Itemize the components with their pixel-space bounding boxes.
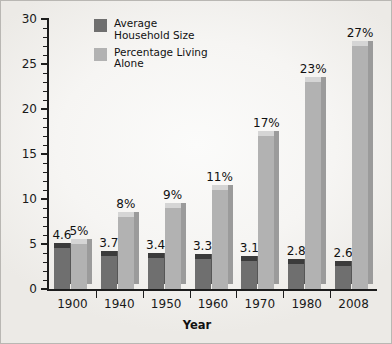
legend-label-percentage-living-alone: Percentage Living Alone: [114, 47, 208, 71]
y-tick-label-15: 15: [7, 148, 37, 160]
y-tick-label-20: 20: [7, 103, 37, 115]
chart-container: 051015202530 190019401950196019701980200…: [0, 0, 392, 344]
bar-1950-series-2: [165, 208, 181, 289]
y-minor-tick: [43, 100, 48, 101]
bar-face-face: [305, 82, 321, 289]
x-axis-title: Year: [1, 318, 392, 332]
x-tick-label-2008: 2008: [324, 298, 384, 310]
y-minor-tick: [43, 181, 48, 182]
bar-top-face: [258, 131, 274, 136]
y-minor-tick: [43, 217, 48, 218]
bar-top-face: [165, 203, 181, 208]
x-tick-separator: [96, 291, 97, 298]
bar-face-face: [335, 266, 351, 289]
bar-face-face: [165, 208, 181, 289]
bar-top-face: [54, 243, 70, 248]
y-minor-tick: [43, 91, 48, 92]
y-minor-tick: [43, 280, 48, 281]
bar-1940-series-2: [118, 217, 134, 289]
legend-item-percentage-living-alone: Percentage Living Alone: [94, 47, 224, 71]
y-minor-tick: [43, 208, 48, 209]
bar-1900-series-1: [54, 248, 70, 289]
y-minor-tick: [43, 271, 48, 272]
y-minor-tick: [43, 163, 48, 164]
bar-value-label-1980-series-2: 23%: [292, 63, 334, 75]
bar-top-face: [241, 256, 257, 261]
bar-value-label-1960-series-2: 11%: [199, 171, 241, 183]
bar-face-face: [54, 248, 70, 289]
y-tick-label-0: 0: [7, 283, 37, 295]
chart-legend: Average Household Size Percentage Living…: [94, 18, 224, 75]
bar-top-face: [212, 185, 228, 190]
y-minor-tick: [43, 55, 48, 56]
y-minor-tick: [43, 172, 48, 173]
y-minor-tick: [43, 118, 48, 119]
bar-top-face: [71, 239, 87, 244]
bar-face-face: [71, 244, 87, 289]
bar-1980-series-1: [288, 264, 304, 289]
bar-top-face: [118, 212, 134, 217]
bar-face-face: [352, 46, 368, 289]
bar-side-face: [274, 131, 279, 284]
x-tick-separator: [283, 291, 284, 298]
x-tick-separator: [143, 291, 144, 298]
y-tick-10: [41, 198, 48, 200]
bar-top-face: [305, 77, 321, 82]
y-tick-20: [41, 108, 48, 110]
bar-face-face: [148, 258, 164, 289]
legend-label-average-household-size: Average Household Size: [114, 18, 194, 42]
bar-value-label-2008-series-2: 27%: [339, 27, 381, 39]
x-tick-separator: [190, 291, 191, 298]
y-minor-tick: [43, 226, 48, 227]
bar-side-face: [228, 185, 233, 284]
bar-top-face: [195, 254, 211, 259]
bar-1900-series-2: [71, 244, 87, 289]
bar-face-face: [118, 217, 134, 289]
bar-top-face: [288, 259, 304, 264]
y-tick-30: [41, 18, 48, 20]
y-minor-tick: [43, 127, 48, 128]
bar-1950-series-1: [148, 258, 164, 289]
plot-area: 051015202530 190019401950196019701980200…: [1, 1, 392, 344]
bar-face-face: [195, 259, 211, 289]
bar-1960-series-2: [212, 190, 228, 289]
bar-1940-series-1: [101, 256, 117, 289]
bar-value-label-1950-series-2: 9%: [152, 189, 194, 201]
x-tick-separator: [236, 291, 237, 298]
bar-face-face: [258, 136, 274, 289]
y-tick-label-30: 30: [7, 13, 37, 25]
bar-value-label-1940-series-2: 8%: [105, 198, 147, 210]
bar-face-face: [101, 256, 117, 289]
y-tick-25: [41, 63, 48, 65]
bar-top-face: [352, 41, 368, 46]
bar-1960-series-1: [195, 259, 211, 289]
y-tick-15: [41, 153, 48, 155]
y-tick-5: [41, 243, 48, 245]
y-minor-tick: [43, 262, 48, 263]
y-tick-0: [41, 288, 48, 290]
y-minor-tick: [43, 46, 48, 47]
bar-1980-series-2: [305, 82, 321, 289]
bar-top-face: [148, 253, 164, 258]
bar-2008-series-2: [352, 46, 368, 289]
bar-face-face: [288, 264, 304, 289]
y-minor-tick: [43, 136, 48, 137]
bar-top-face: [335, 261, 351, 266]
bar-1970-series-2: [258, 136, 274, 289]
bar-face-face: [241, 261, 257, 289]
y-minor-tick: [43, 73, 48, 74]
y-tick-label-25: 25: [7, 58, 37, 70]
y-tick-label-10: 10: [7, 193, 37, 205]
legend-swatch-icon-average-household-size: [94, 19, 107, 32]
y-minor-tick: [43, 37, 48, 38]
y-minor-tick: [43, 28, 48, 29]
y-minor-tick: [43, 145, 48, 146]
bar-top-face: [101, 251, 117, 256]
legend-swatch-icon-percentage-living-alone: [94, 48, 107, 61]
bar-2008-series-1: [335, 266, 351, 289]
bar-value-label-1970-series-2: 17%: [245, 117, 287, 129]
y-minor-tick: [43, 82, 48, 83]
legend-item-average-household-size: Average Household Size: [94, 18, 224, 42]
x-tick-separator: [330, 291, 331, 298]
bar-face-face: [212, 190, 228, 289]
